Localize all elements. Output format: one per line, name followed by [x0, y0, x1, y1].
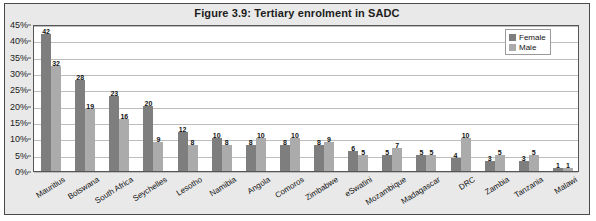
legend-item: Female	[509, 32, 546, 42]
bar-male	[85, 109, 95, 171]
bars-layer: 4232281923162091281088108108965575541035…	[34, 26, 578, 171]
bar-male	[256, 138, 266, 171]
figure-title-band: Figure 3.9: Tertiary enrolment in SADC	[5, 4, 589, 22]
y-axis-tick-mark	[28, 74, 31, 75]
y-axis-tick-mark	[28, 123, 31, 124]
bar-male	[495, 155, 505, 171]
y-axis-tick-label: 15%	[10, 118, 28, 128]
x-axis-tick-label: South Africa	[94, 175, 135, 205]
bar-value-label: 5	[361, 149, 365, 156]
bar-value-label: 3	[522, 155, 526, 162]
bar-male	[529, 155, 539, 171]
bar-value-label: 3	[488, 155, 492, 162]
x-axis-tick-label: Lesotho	[174, 175, 203, 198]
bar-female	[451, 158, 461, 171]
bar-male	[324, 142, 334, 171]
y-axis-tick-mark	[28, 57, 31, 58]
x-axis-tick-label: Malawi	[553, 175, 579, 196]
y-axis-tick-label: 0%	[15, 167, 28, 177]
bar-value-label: 6	[351, 145, 355, 152]
bar-value-label: 19	[86, 103, 94, 110]
y-axis-tick-mark	[28, 41, 31, 42]
bar-value-label: 12	[179, 126, 187, 133]
y-axis-tick-mark	[28, 139, 31, 140]
bar-female	[178, 132, 188, 171]
y-axis-tick-mark	[28, 25, 31, 26]
legend-swatch-icon	[509, 34, 516, 41]
bar-male	[222, 145, 232, 171]
x-axis: MauritiusBotswanaSouth AfricaSeychellesL…	[33, 173, 579, 217]
figure-container: Figure 3.9: Tertiary enrolment in SADC 0…	[0, 0, 596, 221]
bar-value-label: 8	[317, 139, 321, 146]
bar-male	[426, 155, 436, 171]
bar-value-label: 16	[120, 113, 128, 120]
y-axis-tick-label: 30%	[10, 69, 28, 79]
bar-female	[41, 34, 51, 171]
bar-value-label: 10	[462, 132, 470, 139]
y-axis-tick-label: 5%	[15, 151, 28, 161]
x-axis-tick-label: Seychelles	[132, 175, 170, 203]
y-axis-tick-mark	[28, 172, 31, 173]
bar-female	[280, 145, 290, 171]
bar-male	[290, 138, 300, 171]
plot-area: 4232281923162091281088108108965575541035…	[33, 25, 579, 172]
bar-value-label: 5	[385, 149, 389, 156]
x-axis-tick-label: Zambia	[483, 175, 510, 197]
bar-female	[348, 151, 358, 171]
y-axis-tick-label: 25%	[10, 85, 28, 95]
bar-male	[119, 119, 129, 171]
y-axis-tick-mark	[28, 90, 31, 91]
bar-value-label: 23	[110, 90, 118, 97]
bar-female	[143, 106, 153, 171]
bar-male	[461, 138, 471, 171]
bar-value-label: 10	[291, 132, 299, 139]
x-axis-tick-label: Mauritius	[35, 175, 67, 200]
y-axis-tick-label: 45%	[10, 20, 28, 30]
bar-female	[109, 96, 119, 171]
bar-value-label: 42	[42, 28, 50, 35]
bar-value-label: 8	[225, 139, 229, 146]
bar-male	[51, 66, 61, 171]
bar-female	[314, 145, 324, 171]
y-axis: 0%5%10%15%20%25%30%35%40%45%	[0, 25, 31, 172]
x-axis-tick-label: Angola	[246, 175, 272, 196]
bar-value-label: 5	[429, 149, 433, 156]
bar-value-label: 8	[191, 139, 195, 146]
bar-value-label: 10	[257, 132, 265, 139]
bar-value-label: 5	[532, 149, 536, 156]
bar-value-label: 28	[76, 74, 84, 81]
bar-female	[212, 138, 222, 171]
chart-legend: FemaleMale	[505, 29, 551, 55]
bar-value-label: 9	[327, 136, 331, 143]
bar-male	[392, 148, 402, 171]
bar-value-label: 1	[556, 162, 560, 169]
x-axis-tick-label: Namibia	[208, 175, 238, 198]
page-title: Figure 3.9: Tertiary enrolment in SADC	[194, 7, 399, 19]
bar-male	[188, 145, 198, 171]
bar-value-label: 32	[52, 60, 60, 67]
x-axis-tick-label: Comoros	[273, 175, 305, 200]
legend-swatch-icon	[509, 44, 516, 51]
bar-value-label: 9	[156, 136, 160, 143]
x-axis-tick-label: DRC	[457, 175, 476, 192]
bar-value-label: 8	[249, 139, 253, 146]
bar-female	[246, 145, 256, 171]
bar-value-label: 8	[283, 139, 287, 146]
bar-female	[382, 155, 392, 171]
y-axis-tick-label: 35%	[10, 53, 28, 63]
legend-label: Female	[519, 33, 546, 42]
bar-value-label: 5	[419, 149, 423, 156]
y-axis-tick-label: 20%	[10, 102, 28, 112]
y-axis-tick-label: 40%	[10, 36, 28, 46]
bar-male	[358, 155, 368, 171]
bar-value-label: 1	[566, 162, 570, 169]
bar-female	[416, 155, 426, 171]
bar-value-label: 20	[145, 100, 153, 107]
y-axis-tick-mark	[28, 155, 31, 156]
bar-value-label: 4	[454, 152, 458, 159]
bar-value-label: 5	[498, 149, 502, 156]
bar-female	[485, 161, 495, 171]
legend-item: Male	[509, 42, 546, 52]
bar-female	[75, 80, 85, 171]
bar-female	[519, 161, 529, 171]
